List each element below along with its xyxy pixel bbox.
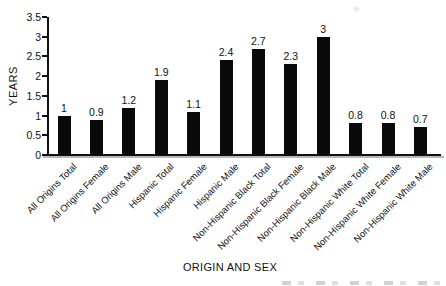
bar xyxy=(187,112,200,155)
y-axis-tick-label: 1.5 xyxy=(9,90,41,102)
bar xyxy=(284,64,297,155)
y-axis-tick xyxy=(42,95,47,97)
y-axis-tick-label: 2.5 xyxy=(9,50,41,62)
bar xyxy=(90,120,103,155)
scan-smudge xyxy=(352,5,361,13)
y-axis-tick xyxy=(42,115,47,117)
cropped-text-artifact xyxy=(282,281,442,285)
bar-value-label: 0.7 xyxy=(400,113,440,125)
bar xyxy=(58,116,71,155)
bar-value-label: 1.2 xyxy=(109,94,149,106)
bar-value-label: 1.1 xyxy=(174,98,214,110)
y-axis xyxy=(47,17,49,156)
y-axis-tick xyxy=(42,36,47,38)
bar xyxy=(349,123,362,155)
bar xyxy=(382,123,395,155)
bar-value-label: 3 xyxy=(303,23,343,35)
y-axis-tick-label: 3.5 xyxy=(9,11,41,23)
y-axis-tick-label: 0 xyxy=(9,149,41,161)
bar-value-label: 0.9 xyxy=(76,106,116,118)
y-axis-tick xyxy=(42,75,47,77)
bar xyxy=(155,80,168,155)
plot-area: 10.91.21.91.12.42.72.330.80.80.7 xyxy=(48,17,440,155)
bar-value-label: 1.9 xyxy=(141,66,181,78)
y-axis-tick xyxy=(42,154,47,156)
bar xyxy=(122,108,135,155)
bar-value-label: 2.4 xyxy=(206,46,246,58)
bar xyxy=(252,49,265,155)
bar-value-label: 2.3 xyxy=(271,50,311,62)
y-axis-tick-label: 3 xyxy=(9,31,41,43)
bar xyxy=(220,60,233,155)
x-axis-shadow-line xyxy=(43,156,444,158)
y-axis-tick-label: 0.5 xyxy=(9,129,41,141)
bar-chart: YEARS 10.91.21.91.12.42.72.330.80.80.7 0… xyxy=(0,0,446,286)
y-axis-tick xyxy=(42,16,47,18)
y-axis-tick xyxy=(42,55,47,57)
y-axis-tick-label: 2 xyxy=(9,70,41,82)
y-axis-tick-label: 1 xyxy=(9,110,41,122)
bar-value-label: 2.7 xyxy=(238,35,278,47)
y-axis-tick xyxy=(42,134,47,136)
x-axis-title: ORIGIN AND SEX xyxy=(40,261,420,273)
bar xyxy=(317,37,330,155)
bar xyxy=(414,127,427,155)
